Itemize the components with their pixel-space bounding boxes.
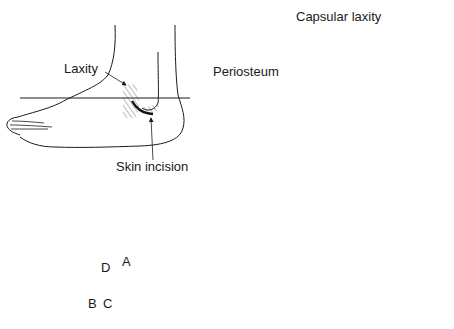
- label-periosteum: Periosteum: [213, 65, 279, 78]
- label-capsular-laxity: Capsular laxity: [296, 10, 381, 23]
- label-laxity: Laxity: [64, 62, 98, 75]
- label-skin-incision: Skin incision: [116, 160, 188, 173]
- diagram-canvas: [0, 0, 454, 329]
- label-incision-b: B: [88, 297, 97, 310]
- label-incision-a: A: [122, 255, 131, 268]
- label-incision-d: D: [101, 261, 110, 274]
- label-incision-c: C: [103, 297, 112, 310]
- panel-top-left-foot: [7, 25, 190, 160]
